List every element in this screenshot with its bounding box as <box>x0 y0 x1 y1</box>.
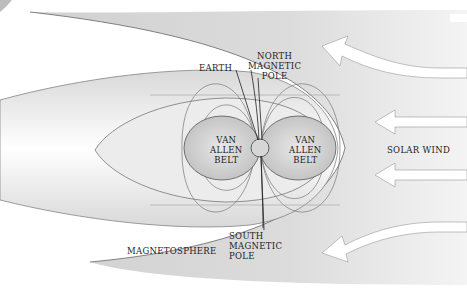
label-south-magnetic-pole: SOUTH MAGNETIC POLE <box>229 231 282 261</box>
label-earth: EARTH <box>199 63 232 73</box>
corner-fragment <box>0 0 12 12</box>
label-solar-wind: SOLAR WIND <box>387 145 450 155</box>
label-van-allen-belt-right: VAN ALLEN BELT <box>289 135 322 165</box>
magnetosphere-diagram: EARTH NORTH MAGNETIC POLE SOUTH MAGNETIC… <box>0 0 467 294</box>
arrow-top-partial <box>450 14 467 22</box>
label-van-allen-belt-left: VAN ALLEN BELT <box>210 135 243 165</box>
label-magnetosphere: MAGNETOSPHERE <box>127 246 217 256</box>
earth-globe <box>251 139 269 157</box>
label-north-magnetic-pole: NORTH MAGNETIC POLE <box>248 51 301 81</box>
